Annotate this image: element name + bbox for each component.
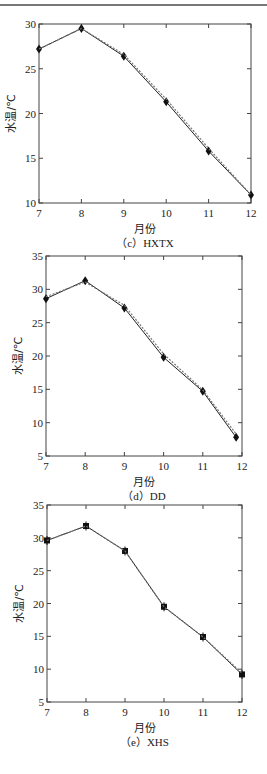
- series-observed-line: [46, 281, 236, 438]
- x-tick-label: 10: [159, 706, 171, 718]
- y-tick-label: 10: [33, 663, 45, 675]
- y-axis-label: 水温/℃: [5, 94, 18, 132]
- diamond-marker-icon: [82, 276, 88, 285]
- y-tick-label: 30: [33, 532, 45, 544]
- x-tick-label: 8: [83, 706, 89, 718]
- diamond-marker-icon: [43, 294, 49, 303]
- y-tick-label: 5: [39, 696, 45, 708]
- series-simulated-line: [39, 28, 251, 194]
- y-tick-label: 15: [32, 383, 44, 395]
- x-tick-label: 7: [36, 207, 42, 219]
- y-axis-label: 水温/℃: [13, 584, 26, 622]
- diamond-marker-icon: [248, 190, 254, 199]
- x-axis-label: 月份: [134, 223, 156, 236]
- x-tick-label: 7: [43, 460, 49, 472]
- y-tick-label: 25: [25, 63, 37, 75]
- x-tick-label: 7: [44, 706, 50, 718]
- series-simulated-line: [47, 526, 242, 673]
- x-tick-label: 8: [82, 460, 88, 472]
- y-tick-label: 10: [32, 417, 44, 429]
- y-tick-label: 20: [33, 598, 45, 610]
- y-tick-label: 20: [32, 350, 44, 362]
- chart-caption: （d）DD: [122, 490, 165, 502]
- x-tick-label: 10: [158, 460, 170, 472]
- x-tick-label: 9: [122, 460, 128, 472]
- series-observed-line: [47, 526, 242, 674]
- x-tick-label: 11: [198, 706, 209, 718]
- chart-caption: （e）XHS: [120, 736, 169, 748]
- y-tick-label: 15: [25, 152, 37, 164]
- series-simulated-line: [46, 282, 236, 434]
- y-tick-label: 25: [32, 317, 44, 329]
- x-tick-label: 11: [203, 207, 214, 219]
- plot-frame: [39, 24, 251, 203]
- y-axis-label: 水温/℃: [12, 337, 25, 375]
- y-tick-label: 5: [38, 450, 44, 462]
- x-tick-label: 12: [246, 207, 257, 219]
- y-tick-label: 30: [25, 18, 37, 30]
- y-tick-label: 15: [33, 630, 45, 642]
- x-tick-label: 10: [161, 207, 173, 219]
- x-tick-label: 9: [121, 207, 127, 219]
- y-tick-label: 35: [32, 250, 44, 262]
- y-tick-label: 35: [33, 499, 45, 511]
- chart-caption: （c）HXTX: [116, 237, 173, 249]
- x-tick-label: 9: [122, 706, 128, 718]
- plot-frame: [47, 505, 242, 702]
- chart-dd: 7891011125101520253035水温/℃月份（d）DD: [12, 250, 248, 502]
- x-axis-label: 月份: [133, 476, 155, 489]
- x-tick-label: 12: [237, 706, 248, 718]
- y-tick-label: 20: [25, 108, 37, 120]
- series-observed-line: [39, 28, 251, 194]
- x-tick-label: 12: [237, 460, 248, 472]
- x-axis-label: 月份: [134, 722, 156, 735]
- y-tick-label: 25: [33, 565, 45, 577]
- y-tick-label: 10: [25, 197, 37, 209]
- charts-canvas: 7891011121015202530水温/℃月份（c）HXTX 7891011…: [0, 0, 267, 774]
- chart-xhs: 7891011125101520253035水温/℃月份（e）XHS: [13, 499, 248, 748]
- x-tick-label: 8: [79, 207, 85, 219]
- x-tick-label: 11: [198, 460, 209, 472]
- chart-hxtx: 7891011121015202530水温/℃月份（c）HXTX: [5, 18, 257, 249]
- plot-frame: [46, 256, 242, 456]
- y-tick-label: 30: [32, 283, 44, 295]
